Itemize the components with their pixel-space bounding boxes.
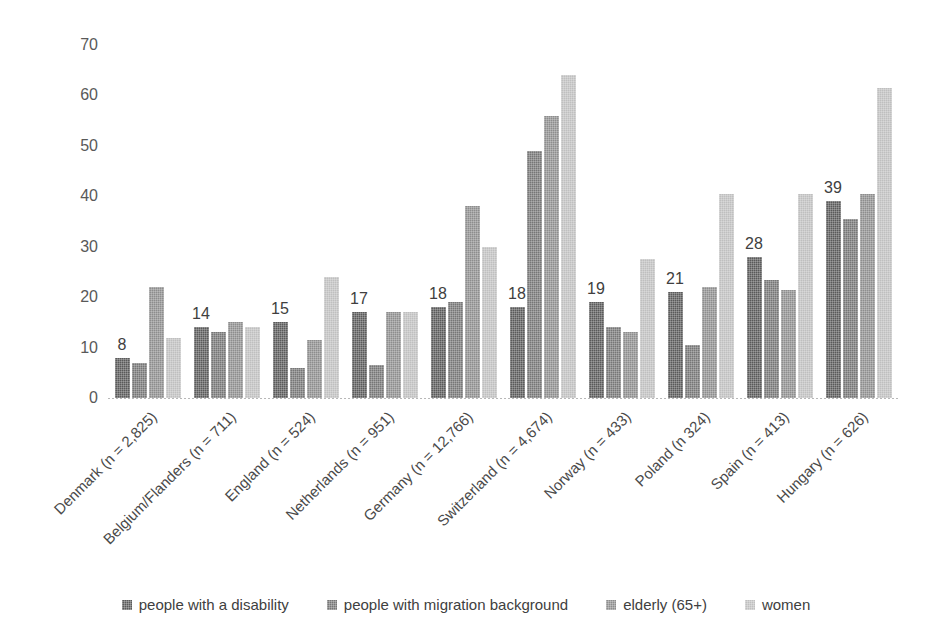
bar[interactable]: 39 <box>826 201 841 398</box>
bar[interactable] <box>544 116 559 398</box>
y-axis-tick: 0 <box>89 389 98 407</box>
bar-group: 17 <box>345 45 424 398</box>
bar-chart: 010203040506070 8141517181819212839 Denm… <box>0 0 932 639</box>
bar[interactable] <box>166 338 181 399</box>
y-axis-tick: 50 <box>80 137 98 155</box>
legend-label: people with migration background <box>344 596 568 613</box>
bar[interactable] <box>798 194 813 398</box>
bar[interactable] <box>877 88 892 398</box>
x-axis-labels: Denmark (n = 2,825)Belgium/Flanders (n =… <box>108 400 898 560</box>
bar[interactable] <box>606 327 621 398</box>
y-axis-tick: 30 <box>80 238 98 256</box>
bar[interactable] <box>149 287 164 398</box>
bar-group: 18 <box>503 45 582 398</box>
legend-swatch-icon <box>745 600 755 610</box>
chart-legend: people with a disabilitypeople with migr… <box>0 596 932 613</box>
y-axis-tick: 70 <box>80 36 98 54</box>
bar[interactable]: 18 <box>510 307 525 398</box>
legend-label: people with a disability <box>139 596 289 613</box>
bar[interactable] <box>702 287 717 398</box>
bar[interactable] <box>640 259 655 398</box>
bar-data-label: 19 <box>587 280 605 298</box>
bar-group: 8 <box>108 45 187 398</box>
legend-swatch-icon <box>606 600 616 610</box>
bar-data-label: 18 <box>508 285 526 303</box>
y-axis: 010203040506070 <box>60 45 98 398</box>
bar[interactable] <box>228 322 243 398</box>
bar-group: 19 <box>582 45 661 398</box>
legend-swatch-icon <box>122 600 132 610</box>
bar[interactable] <box>386 312 401 398</box>
legend-label: women <box>762 596 810 613</box>
legend-swatch-icon <box>327 600 337 610</box>
bar-data-label: 14 <box>192 305 210 323</box>
bar[interactable] <box>465 206 480 398</box>
bar[interactable]: 19 <box>589 302 604 398</box>
bar[interactable] <box>448 302 463 398</box>
bar[interactable]: 28 <box>747 257 762 398</box>
y-axis-tick: 40 <box>80 187 98 205</box>
bar[interactable] <box>482 247 497 398</box>
legend-item[interactable]: elderly (65+) <box>606 596 707 613</box>
bar-group: 14 <box>187 45 266 398</box>
bar[interactable]: 14 <box>194 327 209 398</box>
bar[interactable] <box>764 280 779 399</box>
x-axis-tick: Hungary (n = 626) <box>819 400 898 560</box>
bar-group: 18 <box>424 45 503 398</box>
bar-data-label: 17 <box>350 290 368 308</box>
legend-label: elderly (65+) <box>623 596 707 613</box>
bar[interactable] <box>211 332 226 398</box>
bar[interactable] <box>781 290 796 398</box>
bar-data-label: 8 <box>118 336 127 354</box>
y-axis-tick: 10 <box>80 339 98 357</box>
bar-group: 21 <box>661 45 740 398</box>
bar[interactable] <box>245 327 260 398</box>
bar[interactable] <box>132 363 147 398</box>
bar[interactable]: 17 <box>352 312 367 398</box>
bar[interactable] <box>403 312 418 398</box>
legend-item[interactable]: people with migration background <box>327 596 568 613</box>
bar[interactable]: 18 <box>431 307 446 398</box>
bar[interactable] <box>623 332 638 398</box>
bar-data-label: 21 <box>666 270 684 288</box>
bar-group: 39 <box>819 45 898 398</box>
bar[interactable]: 8 <box>115 358 130 398</box>
bar-groups: 8141517181819212839 <box>108 45 898 398</box>
bar-data-label: 15 <box>271 300 289 318</box>
legend-item[interactable]: women <box>745 596 810 613</box>
y-axis-tick: 20 <box>80 288 98 306</box>
plot-area: 8141517181819212839 <box>108 45 898 398</box>
bar[interactable] <box>290 368 305 398</box>
bar[interactable] <box>369 365 384 398</box>
bar-data-label: 28 <box>745 235 763 253</box>
bar[interactable] <box>843 219 858 398</box>
bar[interactable] <box>719 194 734 398</box>
bar[interactable]: 15 <box>273 322 288 398</box>
bar[interactable] <box>307 340 322 398</box>
legend-item[interactable]: people with a disability <box>122 596 289 613</box>
bar[interactable] <box>860 194 875 398</box>
bar[interactable] <box>527 151 542 398</box>
bar-group: 28 <box>740 45 819 398</box>
y-axis-tick: 60 <box>80 86 98 104</box>
bar-data-label: 39 <box>824 179 842 197</box>
bar-group: 15 <box>266 45 345 398</box>
bar[interactable]: 21 <box>668 292 683 398</box>
bar-data-label: 18 <box>429 285 447 303</box>
bar[interactable] <box>685 345 700 398</box>
x-axis-baseline <box>108 398 898 399</box>
bar[interactable] <box>324 277 339 398</box>
bar[interactable] <box>561 75 576 398</box>
